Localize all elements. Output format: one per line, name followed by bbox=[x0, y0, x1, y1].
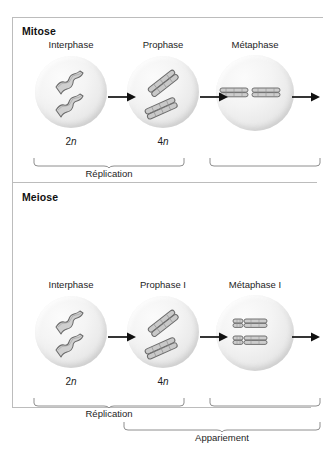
ploidy-label bbox=[211, 135, 299, 148]
stage-label: Prophase I bbox=[119, 279, 207, 291]
brace-label-replication-mitosis: Réplication bbox=[33, 168, 185, 179]
ploidy-symbol: n bbox=[163, 376, 169, 387]
ploidy-symbol: n bbox=[71, 376, 77, 387]
ploidy-label: 4n bbox=[119, 375, 207, 388]
ploidy-label: 4n bbox=[119, 135, 207, 148]
brace-replication-mitosis bbox=[33, 157, 185, 168]
chromatin-strands-icon bbox=[27, 293, 115, 371]
cell-illustration-interphase bbox=[27, 53, 115, 131]
brace-metaphase-mitosis bbox=[209, 157, 321, 168]
panel-middle-divider bbox=[13, 182, 317, 183]
section-heading-mitosis: Mitose bbox=[22, 25, 56, 37]
chromatin-strands-icon bbox=[27, 53, 115, 131]
stage-mitosis-interphase: Interphase 2n bbox=[27, 39, 115, 148]
stage-meiosis-interphase: Interphase 2n bbox=[27, 279, 115, 388]
brace-replication-meiosis bbox=[33, 397, 185, 408]
arrow-right-icon bbox=[291, 331, 321, 343]
arrow-right-icon bbox=[291, 91, 321, 103]
ploidy-label: 2n bbox=[27, 135, 115, 148]
cell-illustration-interphase bbox=[27, 293, 115, 371]
stage-label: Interphase bbox=[27, 39, 115, 51]
stage-row-meiosis: Interphase 2n Prophase I bbox=[13, 279, 323, 409]
stage-row-mitosis: Interphase 2n Prophase bbox=[13, 39, 323, 169]
arrow-right-icon bbox=[107, 331, 137, 343]
figure-panel: Mitose Interphase 2n bbox=[12, 17, 322, 408]
stage-label: Métaphase bbox=[211, 39, 299, 51]
panel-top-divider bbox=[13, 17, 323, 18]
ploidy-symbol: n bbox=[71, 136, 77, 147]
ploidy-label bbox=[211, 375, 299, 388]
stage-label: Métaphase I bbox=[211, 279, 299, 291]
brace-metaphase-meiosis bbox=[209, 397, 321, 408]
stage-label: Interphase bbox=[27, 279, 115, 291]
brace-label-replication-meiosis: Réplication bbox=[33, 408, 185, 419]
stage-label: Prophase bbox=[119, 39, 207, 51]
arrow-right-icon bbox=[199, 331, 229, 343]
arrow-right-icon bbox=[107, 91, 137, 103]
brace-label-appariement: Appariement bbox=[123, 432, 321, 443]
arrow-right-icon bbox=[199, 91, 229, 103]
ploidy-label: 2n bbox=[27, 375, 115, 388]
brace-appariement-meiosis bbox=[123, 421, 321, 432]
ploidy-symbol: n bbox=[163, 136, 169, 147]
section-heading-meiosis: Meiose bbox=[22, 191, 58, 203]
